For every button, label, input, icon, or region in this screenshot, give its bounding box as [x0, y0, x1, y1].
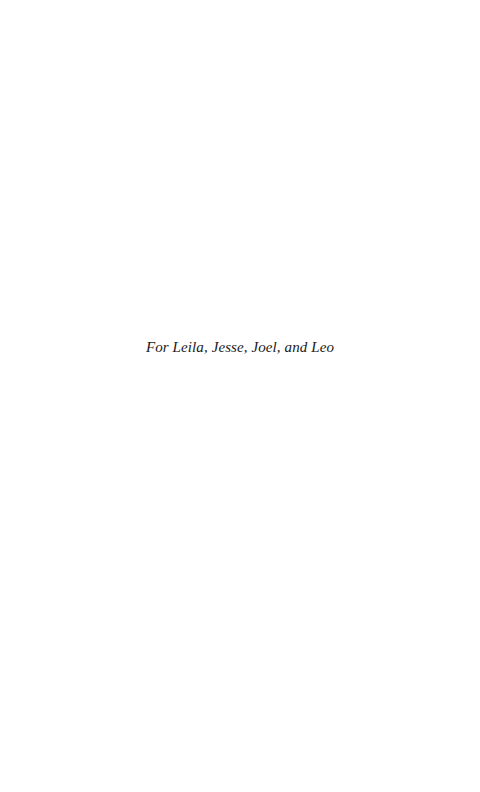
dedication-text: For Leila, Jesse, Joel, and Leo: [0, 337, 480, 357]
book-page: For Leila, Jesse, Joel, and Leo: [0, 0, 480, 792]
